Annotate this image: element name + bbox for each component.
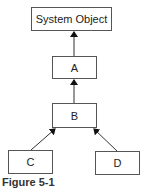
edge-c-to-b xyxy=(31,129,55,150)
edge-d-to-b xyxy=(94,129,117,151)
node-c: C xyxy=(8,150,53,174)
figure-caption: Figure 5-1 xyxy=(2,176,55,188)
node-label: B xyxy=(71,110,78,122)
node-system-object: System Object xyxy=(31,7,112,31)
node-label: A xyxy=(71,62,78,74)
node-d: D xyxy=(95,151,140,175)
node-label: D xyxy=(114,157,122,169)
node-b: B xyxy=(52,103,97,128)
node-label: C xyxy=(27,156,35,168)
node-label: System Object xyxy=(36,13,108,25)
node-a: A xyxy=(52,56,97,79)
